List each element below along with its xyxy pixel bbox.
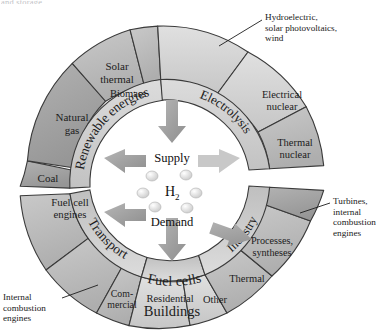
center-demand-label: Demand — [151, 215, 194, 229]
label-processes-line1: Processes, — [251, 235, 293, 246]
arrow-right-supply — [104, 149, 146, 173]
clipped-caption-text: and storage. — [1, 0, 44, 4]
arrow-left-supply — [198, 149, 240, 173]
leader-line-hydroelectric — [219, 20, 262, 46]
molecule-dot — [190, 188, 202, 198]
label-other: Other — [203, 294, 227, 305]
label-fuel-cell-engines-line2: engines — [54, 208, 87, 220]
label-solar-thermal-line2: thermal — [100, 73, 134, 85]
label-thermal: Thermal — [229, 273, 265, 284]
label-solar-thermal-line1: Solar — [105, 60, 129, 72]
label-natural-gas-line1: Natural — [56, 111, 89, 123]
molecule-dot — [149, 202, 161, 212]
hydroelectric-callout: Hydroelectric, solar photovoltaics, wind — [265, 12, 369, 44]
label-buildings: Buildings — [144, 303, 201, 319]
label-fuel-cell-engines-line1: Fuel cell — [51, 196, 88, 208]
center-supply-label: Supply — [154, 151, 190, 165]
label-commercial-line2: mercial — [107, 299, 137, 310]
molecule-dot — [146, 171, 158, 181]
label-processes-line2: syntheses — [252, 247, 291, 258]
label-biomass: Biomass — [110, 88, 146, 99]
arrow-left-demand — [104, 203, 146, 227]
label-thermal-nuclear-line2: nuclear — [280, 149, 311, 160]
molecule-subscript: 2 — [175, 192, 180, 202]
molecule-dot — [181, 203, 193, 213]
molecule-dot — [137, 188, 149, 198]
center-content: Supply H 2 Demand — [137, 151, 202, 229]
label-commercial-line1: Com- — [111, 288, 133, 299]
internal-combustion-callout: Internal combustion engines — [3, 292, 65, 324]
label-electrical-nuclear-line2: nuclear — [267, 101, 298, 112]
label-natural-gas-line2: gas — [65, 124, 80, 136]
molecule-formula: H — [165, 184, 175, 199]
label-thermal-nuclear-line1: Thermal — [277, 137, 313, 148]
label-residential: Residential — [146, 293, 193, 304]
arrow-down-supply — [158, 100, 186, 143]
turbines-callout: Turbines, internal combustion engines — [333, 196, 373, 238]
label-electrical-nuclear-line1: Electrical — [262, 89, 302, 100]
molecule-dot — [180, 170, 192, 180]
label-coal: Coal — [38, 172, 59, 184]
